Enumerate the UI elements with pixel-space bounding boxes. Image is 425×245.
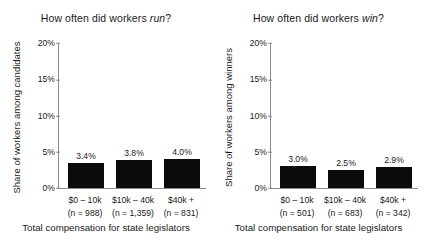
x-tick-n-0: (n = 501) [280,207,315,220]
y-tick-10: 10% [237,111,267,120]
bar-run-0 [68,163,104,188]
x-tick-labels-run: $0 – 10k (n = 988) $10k – 40k (n = 1,359… [58,194,206,220]
x-axis-label-run: Total compensation for state legislators [0,222,212,233]
plot-area-win: 0% 5% 10% 15% 20% 3.0% 2.5% 2.9% [270,43,418,189]
x-tick-n-2: (n = 831) [164,207,199,220]
bar-value-run-0: 3.4% [76,151,96,161]
x-tick-category-2: $40k + [168,195,194,205]
y-tick-0: 0% [237,184,267,193]
x-tick-n-2: (n = 342) [376,207,411,220]
panel-title-suffix: ? [165,12,171,24]
y-tick-15: 15% [237,75,267,84]
y-axis-label-win: Share of workers among winners [223,38,234,198]
x-tick-run-2: $40k + (n = 831) [164,194,199,219]
x-tick-n-0: (n = 988) [68,207,103,220]
y-tick-20: 20% [237,39,267,48]
y-tick-20: 20% [25,39,55,48]
bar-group-1: 2.5% [328,43,364,188]
x-tick-category-1: $10k – 40k [324,195,366,205]
bar-group-0: 3.0% [280,43,316,188]
x-tick-labels-win: $0 – 10k (n = 501) $10k – 40k (n = 683) … [270,194,418,220]
plot-area-run: 0% 5% 10% 15% 20% 3.4% 3.8% 4.0% [58,43,206,189]
figure: How often did workers run? Share of work… [0,0,425,245]
bar-value-win-0: 3.0% [288,154,308,164]
bar-win-1 [328,170,364,188]
bar-win-0 [280,166,316,188]
panel-title-prefix: How often did workers [41,12,150,24]
panel-title-emphasis: win [362,12,378,24]
bar-group-1: 3.8% [116,43,152,188]
bar-win-2 [376,167,412,188]
y-tick-15: 15% [25,75,55,84]
bar-value-win-1: 2.5% [336,158,356,168]
x-tick-category-0: $0 – 10k [69,195,102,205]
x-tick-run-0: $0 – 10k (n = 988) [68,194,103,219]
bar-group-0: 3.4% [68,43,104,188]
bar-group-2: 4.0% [164,43,200,188]
x-tick-win-0: $0 – 10k (n = 501) [280,194,315,219]
x-axis-label-win: Total compensation for state legislators [212,222,425,233]
bars-run: 3.4% 3.8% 4.0% [59,43,206,188]
x-tick-n-1: (n = 1,359) [112,207,154,220]
y-tick-5: 5% [237,147,267,156]
bar-group-2: 2.9% [376,43,412,188]
x-tick-win-1: $10k – 40k (n = 683) [324,194,366,219]
x-tick-category-2: $40k + [380,195,406,205]
panel-title-prefix: How often did workers [253,12,362,24]
bar-value-win-2: 2.9% [384,155,404,165]
y-tick-0: 0% [25,184,55,193]
bar-run-1 [116,160,152,188]
x-tick-category-1: $10k – 40k [112,195,154,205]
y-axis-label-run: Share of workers among candidates [11,38,22,198]
panel-title-win: How often did workers win? [212,12,425,24]
x-tick-n-1: (n = 683) [324,207,366,220]
y-tick-10: 10% [25,111,55,120]
bar-run-2 [164,159,200,188]
panel-title-run: How often did workers run? [0,12,212,24]
y-tick-5: 5% [25,147,55,156]
panel-title-emphasis: run [150,12,165,24]
x-tick-run-1: $10k – 40k (n = 1,359) [112,194,154,219]
bar-value-run-2: 4.0% [172,147,192,157]
x-tick-win-2: $40k + (n = 342) [376,194,411,219]
bars-win: 3.0% 2.5% 2.9% [271,43,418,188]
chart-panel-run: How often did workers run? Share of work… [0,0,212,245]
bar-value-run-1: 3.8% [124,148,144,158]
x-tick-category-0: $0 – 10k [281,195,314,205]
panel-title-suffix: ? [378,12,384,24]
chart-panel-win: How often did workers win? Share of work… [212,0,425,245]
